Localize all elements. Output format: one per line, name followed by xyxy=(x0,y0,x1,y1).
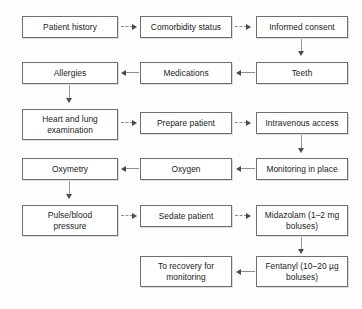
edge-fentanyl-to-to-recovery-for-monitoring-shaft xyxy=(241,271,255,272)
node-label-line-1: Fentanyl (10–20 µg xyxy=(265,261,338,272)
node-label: Prepare patient xyxy=(157,118,215,129)
node-sedate-patient[interactable]: Sedate patient xyxy=(140,205,232,227)
edge-medications-to-allergies-shaft xyxy=(126,72,139,73)
edge-midazolam-to-fentanyl-arrowhead xyxy=(298,249,304,254)
edge-allergies-to-heart-and-lung-examination-shaft xyxy=(69,85,70,99)
node-label: Oxygen xyxy=(171,164,200,175)
node-label-line-1: To recovery for xyxy=(158,261,214,272)
node-label: Medications xyxy=(163,68,208,79)
edge-prepare-patient-to-intravenous-access-arrowhead xyxy=(246,120,251,126)
edge-oxygen-to-oxymetry-shaft xyxy=(126,168,139,169)
node-label-line-1: Pulse/blood xyxy=(48,210,92,221)
node-teeth[interactable]: Teeth xyxy=(256,62,348,84)
node-label-line-2: boluses) xyxy=(286,272,318,283)
node-label-line-2: examination xyxy=(47,125,93,136)
node-label: Patient history xyxy=(43,22,97,33)
node-label: Comorbidity status xyxy=(151,22,221,33)
edge-monitoring-in-place-to-oxygen-shaft xyxy=(241,168,255,169)
edge-patient-history-to-comorbidity-status-arrowhead xyxy=(132,24,137,30)
node-patient-history[interactable]: Patient history xyxy=(22,16,118,38)
edge-intravenous-access-to-monitoring-in-place-arrowhead xyxy=(298,148,304,153)
node-heart-and-lung-examination[interactable]: Heart and lung examination xyxy=(22,109,118,140)
node-monitoring-in-place[interactable]: Monitoring in place xyxy=(256,158,348,180)
edge-informed-consent-to-teeth-arrowhead xyxy=(298,51,304,56)
node-label: Oxymetry xyxy=(52,164,88,175)
edge-oxymetry-to-pulse-blood-pressure-shaft xyxy=(69,181,70,195)
node-allergies[interactable]: Allergies xyxy=(22,62,118,84)
edge-allergies-to-heart-and-lung-examination-arrowhead xyxy=(66,98,72,103)
node-midazolam[interactable]: Midazolam (1–2 mg boluses) xyxy=(256,205,348,236)
edge-pulse-blood-pressure-to-sedate-patient-arrowhead xyxy=(132,213,137,219)
edge-heart-and-lung-examination-to-prepare-patient-arrowhead xyxy=(132,120,137,126)
node-label: Informed consent xyxy=(269,22,335,33)
edge-teeth-to-medications-shaft xyxy=(241,72,255,73)
node-prepare-patient[interactable]: Prepare patient xyxy=(140,112,232,134)
node-label: Sedate patient xyxy=(159,211,214,222)
node-oxymetry[interactable]: Oxymetry xyxy=(22,158,118,180)
node-label: Intravenous access xyxy=(265,118,338,129)
edge-intravenous-access-to-monitoring-in-place-shaft xyxy=(301,135,302,149)
edge-sedate-patient-to-midazolam-arrowhead xyxy=(246,213,251,219)
node-pulse-blood-pressure[interactable]: Pulse/blood pressure xyxy=(22,205,118,236)
flowchart-canvas: Patient history Comorbidity status Infor… xyxy=(0,0,362,309)
node-label: Allergies xyxy=(54,68,87,79)
node-fentanyl[interactable]: Fentanyl (10–20 µg boluses) xyxy=(256,256,348,287)
node-label: Teeth xyxy=(292,68,313,79)
node-informed-consent[interactable]: Informed consent xyxy=(256,16,348,38)
node-intravenous-access[interactable]: Intravenous access xyxy=(256,112,348,134)
node-medications[interactable]: Medications xyxy=(140,62,232,84)
edge-comorbidity-status-to-informed-consent-arrowhead xyxy=(246,24,251,30)
node-oxygen[interactable]: Oxygen xyxy=(140,158,232,180)
node-label-line-2: boluses) xyxy=(286,221,318,232)
node-label-line-1: Midazolam (1–2 mg xyxy=(265,210,339,221)
node-to-recovery-for-monitoring[interactable]: To recovery for monitoring xyxy=(140,256,232,287)
node-label: Monitoring in place xyxy=(266,164,337,175)
node-label-line-1: Heart and lung xyxy=(42,114,98,125)
edge-oxymetry-to-pulse-blood-pressure-arrowhead xyxy=(66,194,72,199)
node-label-line-2: monitoring xyxy=(166,272,206,283)
node-label-line-2: pressure xyxy=(54,221,87,232)
node-comorbidity-status[interactable]: Comorbidity status xyxy=(140,16,232,38)
